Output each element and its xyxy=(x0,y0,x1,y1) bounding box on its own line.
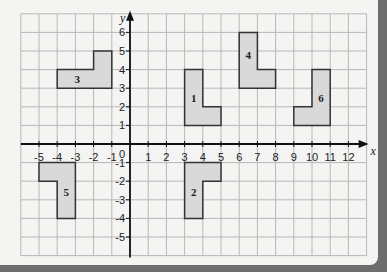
shape-label-5: 5 xyxy=(64,186,70,198)
y-axis-label: y xyxy=(119,11,126,25)
x-tick-label: -3 xyxy=(71,151,81,163)
x-tick-label: -2 xyxy=(89,151,99,163)
shape-label-4: 4 xyxy=(246,49,252,61)
x-tick-label: 8 xyxy=(273,151,279,163)
x-tick-label: 6 xyxy=(236,151,242,163)
worksheet-page: 123456 -5-4-3-2-1123456789101112654321-1… xyxy=(0,0,378,265)
tick-labels: -5-4-3-2-1123456789101112654321-1-2-3-4-… xyxy=(34,11,376,243)
shape-label-3: 3 xyxy=(74,73,80,85)
x-axis-label: x xyxy=(370,144,377,158)
x-tick-label: 10 xyxy=(306,151,318,163)
y-tick-label: 1 xyxy=(119,119,125,131)
shape-label-1: 1 xyxy=(191,92,197,104)
x-tick-label: -4 xyxy=(52,151,62,163)
x-tick-label: 9 xyxy=(291,151,297,163)
x-tick-label: 7 xyxy=(254,151,260,163)
x-tick-label: 3 xyxy=(182,151,188,163)
x-tick-label: -5 xyxy=(34,151,44,163)
coordinate-grid: 123456 -5-4-3-2-1123456789101112654321-1… xyxy=(0,0,387,272)
x-tick-label: 2 xyxy=(163,151,169,163)
origin-label: 0 xyxy=(119,148,125,160)
x-tick-label: 11 xyxy=(324,151,335,163)
y-tick-label: 2 xyxy=(119,101,125,113)
x-tick-label: 5 xyxy=(218,151,224,163)
shape-label-2: 2 xyxy=(191,186,197,198)
shape-6 xyxy=(294,70,330,126)
y-tick-label: -3 xyxy=(115,194,125,206)
y-tick-label: -4 xyxy=(115,212,125,224)
axes xyxy=(21,11,369,258)
y-tick-label: 6 xyxy=(119,26,125,38)
x-tick-label: 12 xyxy=(342,151,354,163)
grid-lines xyxy=(21,14,367,256)
shape-label-6: 6 xyxy=(318,92,324,104)
y-axis-arrow-icon xyxy=(126,11,134,21)
y-tick-label: 3 xyxy=(119,82,125,94)
x-tick-label: 1 xyxy=(145,151,151,163)
shape-3 xyxy=(57,51,112,88)
x-tick-label: 4 xyxy=(200,151,206,163)
y-tick-label: 4 xyxy=(119,64,125,76)
y-tick-label: 5 xyxy=(119,45,125,57)
y-tick-label: -2 xyxy=(115,175,125,187)
shape-5 xyxy=(39,163,75,219)
y-tick-label: -5 xyxy=(115,231,125,243)
